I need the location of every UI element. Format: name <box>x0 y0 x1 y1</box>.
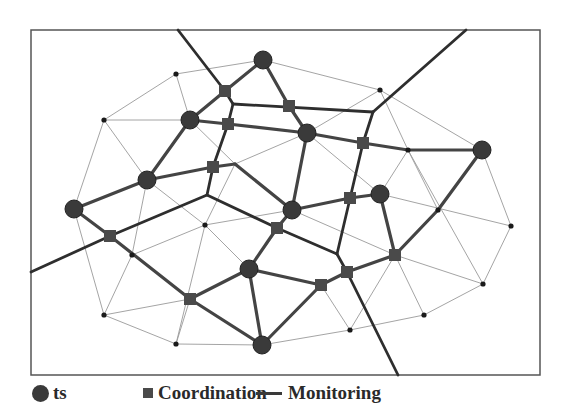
dot-node <box>377 87 382 92</box>
coordination-node <box>344 192 356 204</box>
legend-item-monitoring: Monitoring <box>250 378 381 408</box>
ts-node <box>283 201 301 219</box>
dot-node <box>173 341 178 346</box>
ts-node <box>181 111 199 129</box>
coordination-node <box>271 222 283 234</box>
ts-node <box>254 51 272 69</box>
dot-node <box>480 281 485 286</box>
dot-node <box>129 252 134 257</box>
coordination-node <box>104 230 116 242</box>
ts-node <box>253 336 271 354</box>
dot-node <box>421 312 426 317</box>
dot-node <box>435 207 440 212</box>
dot-node <box>202 222 207 227</box>
coordination-node <box>219 85 231 97</box>
coordination-node <box>315 279 327 291</box>
ts-node <box>138 171 156 189</box>
coordination-node <box>222 118 234 130</box>
dot-node <box>101 312 106 317</box>
ts-node <box>65 200 83 218</box>
ts-node <box>473 141 491 159</box>
coordination-node <box>357 137 369 149</box>
dot-node <box>508 223 513 228</box>
coordination-square-icon <box>143 388 153 398</box>
coordination-node <box>207 161 219 173</box>
dot-node <box>347 327 352 332</box>
coordination-node <box>341 266 353 278</box>
coordination-node <box>389 249 401 261</box>
coordination-node <box>184 293 196 305</box>
network-diagram <box>0 0 571 378</box>
coordination-node <box>283 100 295 112</box>
dot-node <box>405 147 410 152</box>
legend-label-monitoring: Monitoring <box>288 382 381 404</box>
legend: ts Coordination Monitoring <box>0 378 571 408</box>
dot-node <box>101 117 106 122</box>
ts-node <box>371 185 389 203</box>
ts-circle-icon <box>32 385 49 402</box>
legend-label-ts: ts <box>53 382 67 404</box>
monitoring-line-icon <box>256 392 282 395</box>
ts-node <box>240 260 258 278</box>
legend-item-coordination: Coordination <box>143 378 267 408</box>
legend-item-ts: ts <box>32 378 67 408</box>
ts-node <box>298 124 316 142</box>
dot-node <box>173 71 178 76</box>
